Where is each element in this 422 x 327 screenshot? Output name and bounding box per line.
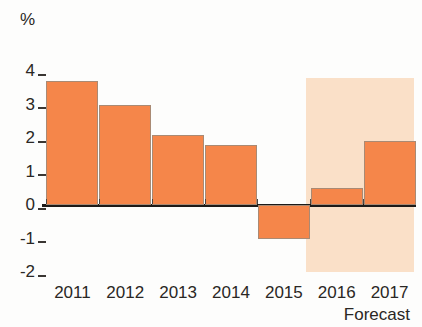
y-axis-tick-neg1: -1 xyxy=(0,230,46,248)
x-axis-label-2016: 2016 xyxy=(310,283,363,303)
y-axis-tick-label: 2 xyxy=(26,128,35,148)
x-axis-tick-2014 xyxy=(205,199,206,204)
x-axis-tick-2012 xyxy=(99,199,100,204)
bar-2013 xyxy=(152,135,204,205)
x-axis-label-2017: 2017 xyxy=(363,283,416,303)
x-axis-label-2015: 2015 xyxy=(257,283,310,303)
x-axis-tick-2015 xyxy=(257,199,258,204)
x-axis-label-2012: 2012 xyxy=(99,283,152,303)
bar-2014 xyxy=(205,145,257,205)
bar-2012 xyxy=(99,105,151,206)
forecast-caption: Forecast xyxy=(344,305,410,325)
plot-area: 43210-1-22011201220132014201520162017 xyxy=(0,0,422,327)
y-axis-tick-label: 3 xyxy=(26,95,35,115)
y-axis-tick-mark xyxy=(38,107,46,109)
x-axis-tick-2017 xyxy=(363,199,364,204)
y-axis-tick-mark xyxy=(38,275,46,277)
y-axis-tick-label: 4 xyxy=(26,61,35,81)
y-axis-tick-2: 2 xyxy=(0,129,46,147)
y-axis-tick-3: 3 xyxy=(0,96,46,114)
x-axis-label-2013: 2013 xyxy=(152,283,205,303)
x-axis-label-2014: 2014 xyxy=(205,283,258,303)
bar-2015 xyxy=(258,205,310,239)
y-axis-tick-mark xyxy=(38,74,46,76)
y-axis-tick-4: 4 xyxy=(0,62,46,80)
bar-2016 xyxy=(311,188,363,205)
y-axis-tick-label: 0 xyxy=(26,195,35,215)
y-axis-tick-label: -2 xyxy=(20,262,35,282)
y-axis-tick-label: -1 xyxy=(20,229,35,249)
x-axis-tick-2016 xyxy=(310,199,311,204)
y-axis-tick-mark xyxy=(38,208,46,210)
y-axis-tick-0: 0 xyxy=(0,196,46,214)
bar-2017 xyxy=(364,141,416,205)
y-axis-tick-neg2: -2 xyxy=(0,263,46,281)
y-axis-tick-mark xyxy=(38,241,46,243)
x-axis-tick-2011 xyxy=(46,199,47,204)
bar-chart: % 43210-1-22011201220132014201520162017 … xyxy=(0,0,422,327)
bar-2011 xyxy=(46,81,98,205)
y-axis-tick-label: 1 xyxy=(26,162,35,182)
y-axis-tick-mark xyxy=(38,174,46,176)
x-axis-label-2011: 2011 xyxy=(46,283,99,303)
y-axis-tick-mark xyxy=(38,141,46,143)
y-axis-tick-1: 1 xyxy=(0,163,46,181)
x-axis-tick-2013 xyxy=(152,199,153,204)
